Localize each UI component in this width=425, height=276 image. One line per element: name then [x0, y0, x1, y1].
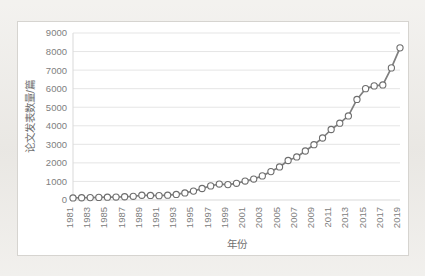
svg-text:1993: 1993: [167, 207, 178, 228]
series-group: [70, 45, 403, 201]
svg-text:2011: 2011: [322, 207, 333, 227]
svg-text:1983: 1983: [81, 207, 92, 228]
svg-text:1995: 1995: [184, 207, 195, 228]
chart-screenshot: 0100020003000400050006000700080009000 19…: [0, 0, 425, 276]
svg-text:1989: 1989: [133, 207, 144, 228]
svg-text:1987: 1987: [116, 207, 127, 228]
svg-text:3000: 3000: [46, 139, 67, 150]
svg-text:2019: 2019: [391, 207, 402, 228]
svg-text:2005: 2005: [271, 207, 282, 228]
chart-card: 0100020003000400050006000700080009000 19…: [17, 21, 409, 256]
svg-text:7000: 7000: [46, 65, 67, 76]
y-axis-ticks: 0100020003000400050006000700080009000: [46, 27, 67, 205]
svg-text:8000: 8000: [46, 46, 67, 57]
svg-text:4000: 4000: [46, 120, 67, 131]
svg-text:6000: 6000: [46, 83, 67, 94]
svg-text:1997: 1997: [202, 207, 213, 228]
svg-text:2013: 2013: [339, 207, 350, 228]
line-chart: 0100020003000400050006000700080009000 19…: [18, 22, 410, 255]
svg-text:1991: 1991: [150, 207, 161, 228]
svg-text:2001: 2001: [236, 207, 247, 228]
series-markers: [70, 45, 403, 201]
x-axis-ticks: 1981198319851987198919911993199519971999…: [64, 207, 402, 228]
svg-text:2000: 2000: [46, 157, 67, 168]
svg-text:0: 0: [62, 194, 67, 205]
svg-text:9000: 9000: [46, 27, 67, 38]
svg-text:2015: 2015: [357, 207, 368, 228]
svg-text:2003: 2003: [253, 207, 264, 228]
y-axis-title: 论文发表数量/篇: [24, 80, 36, 153]
svg-text:2009: 2009: [305, 207, 316, 228]
svg-text:1999: 1999: [219, 207, 230, 228]
svg-text:1000: 1000: [46, 176, 67, 187]
gridlines: [73, 33, 400, 181]
svg-text:2017: 2017: [374, 207, 385, 228]
svg-text:2007: 2007: [288, 207, 299, 228]
x-axis-title: 年份: [227, 238, 248, 250]
svg-text:1985: 1985: [98, 207, 109, 228]
svg-text:5000: 5000: [46, 102, 67, 113]
svg-text:1981: 1981: [64, 207, 75, 228]
